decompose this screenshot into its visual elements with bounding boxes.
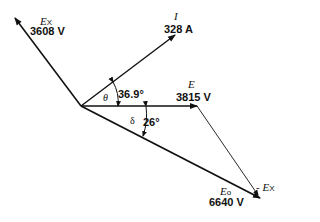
- label-neg-ex-symbol: - EX: [256, 178, 274, 194]
- label-ex-value: 3608 V: [30, 26, 65, 37]
- angle-theta-symbol: θ: [103, 93, 108, 103]
- label-eo-value: 6640 V: [209, 197, 244, 208]
- label-i-symbol: I: [174, 11, 178, 22]
- angle-delta-symbol: δ: [130, 116, 135, 126]
- label-i-value: 328 A: [164, 24, 193, 35]
- angle-theta-value: 36.9°: [118, 89, 144, 100]
- label-e-symbol: E: [188, 79, 195, 90]
- vector-eo: [81, 106, 260, 198]
- angle-delta-value: 26°: [143, 117, 160, 128]
- label-e-value: 3815 V: [176, 92, 211, 103]
